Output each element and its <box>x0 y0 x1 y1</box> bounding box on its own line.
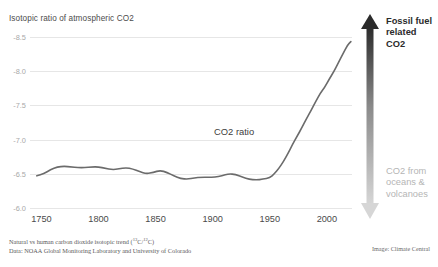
annotation-natural-co2-line3: volcanoes <box>386 189 438 200</box>
x-tick-label: 1850 <box>145 214 165 224</box>
series-plot <box>30 30 352 208</box>
footer-line1-post: C) <box>148 238 154 245</box>
image-credit: Image: Climate Central <box>372 245 430 252</box>
annotation-fossil-fuel-line2: related <box>386 27 438 38</box>
y-tick-label: -7.5 <box>13 101 26 110</box>
annotation-natural-co2-line2: oceans & <box>386 177 438 188</box>
arrow-gradient-icon <box>356 14 384 219</box>
footer-source-line: Natural vs human carbon dioxide isotopic… <box>9 236 191 247</box>
y-tick-label: -6.5 <box>13 169 26 178</box>
plot-area: -8.5-8.0-7.5-7.0-6.5-6.0 175018001850190… <box>30 30 352 208</box>
series-inline-label: CO2 ratio <box>214 126 254 137</box>
footer-notes: Natural vs human carbon dioxide isotopic… <box>9 236 191 255</box>
chart-container: Isotopic ratio of atmospheric CO2 -8.5-8… <box>0 0 438 267</box>
y-tick-label: -7.0 <box>13 135 26 144</box>
y-tick-label: -8.5 <box>13 32 26 41</box>
annotation-natural-co2: CO2 from oceans & volcanoes <box>386 166 438 200</box>
isotope-direction-arrow <box>356 14 384 219</box>
x-tick-label: 1750 <box>31 214 51 224</box>
y-tick-label: -8.0 <box>13 67 26 76</box>
x-tick-label: 2000 <box>317 214 337 224</box>
x-tick-label: 1950 <box>260 214 280 224</box>
x-tick-label: 1900 <box>202 214 222 224</box>
footer-line1-pre: Natural vs human carbon dioxide isotopic… <box>9 238 133 245</box>
y-tick-label: -6.0 <box>13 204 26 213</box>
annotation-fossil-fuel-line1: Fossil fuel <box>386 16 438 27</box>
annotation-fossil-fuel: Fossil fuel related CO2 <box>386 16 438 50</box>
gridline <box>30 208 352 209</box>
series-line-co2-ratio <box>37 42 351 180</box>
footer-data-line: Data: NOAA Global Monitoring Laboratory … <box>9 247 191 255</box>
chart-title: Isotopic ratio of atmospheric CO2 <box>9 14 134 23</box>
annotation-fossil-fuel-line3: CO2 <box>386 39 438 50</box>
x-tick-label: 1800 <box>88 214 108 224</box>
annotation-natural-co2-line1: CO2 from <box>386 166 438 177</box>
